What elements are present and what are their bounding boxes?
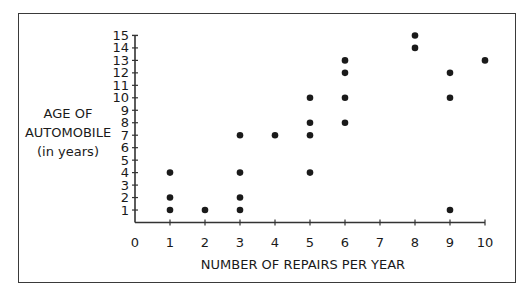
data-point: [342, 95, 349, 102]
data-point: [237, 169, 244, 176]
y-tick-label: 15: [112, 28, 129, 43]
data-point: [412, 45, 419, 52]
x-tick-label: 1: [166, 235, 174, 250]
x-tick-label: 4: [271, 235, 279, 250]
data-point: [342, 70, 349, 77]
data-point: [237, 194, 244, 201]
data-point: [167, 194, 174, 201]
data-point: [447, 95, 454, 102]
data-point: [447, 207, 454, 214]
x-tick-label: 10: [477, 235, 494, 250]
data-point: [412, 32, 419, 39]
data-point: [307, 132, 314, 139]
data-point: [307, 169, 314, 176]
data-point: [167, 169, 174, 176]
data-point: [482, 57, 489, 64]
data-point: [307, 95, 314, 102]
data-point: [342, 57, 349, 64]
data-point: [237, 207, 244, 214]
data-point: [202, 207, 209, 214]
x-tick-label: 2: [201, 235, 209, 250]
x-tick-label: 3: [236, 235, 244, 250]
y-axis-label-line-3: (in years): [13, 143, 123, 161]
data-point: [342, 119, 349, 126]
data-point: [272, 132, 279, 139]
x-tick-label: 9: [446, 235, 454, 250]
x-tick-label: 5: [306, 235, 314, 250]
x-tick-label: 7: [376, 235, 384, 250]
x-tick-label: 8: [411, 235, 419, 250]
x-tick-label: 0: [131, 235, 139, 250]
x-tick-label: 6: [341, 235, 349, 250]
data-point: [237, 132, 244, 139]
y-axis-label-line-2: AUTOMOBILE: [13, 124, 123, 142]
y-axis-label-line-1: AGE OF: [13, 105, 123, 123]
x-axis-title: NUMBER OF REPAIRS PER YEAR: [0, 257, 525, 272]
data-point: [447, 70, 454, 77]
data-point: [167, 207, 174, 214]
data-point: [307, 119, 314, 126]
